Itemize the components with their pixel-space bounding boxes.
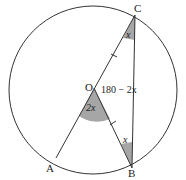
circle-theorem-diagram: C O A B x x 2x 180 − 2x (0, 0, 186, 180)
label-B: B (128, 167, 135, 179)
label-C: C (134, 2, 141, 14)
angle-label-O-obtuse: 180 − 2x (101, 84, 137, 95)
label-A: A (46, 162, 54, 174)
label-O: O (85, 81, 93, 93)
line-OB (94, 88, 132, 168)
angle-label-B: x (122, 134, 128, 145)
angle-label-O-central: 2x (86, 102, 96, 113)
angle-label-C: x (125, 29, 131, 40)
